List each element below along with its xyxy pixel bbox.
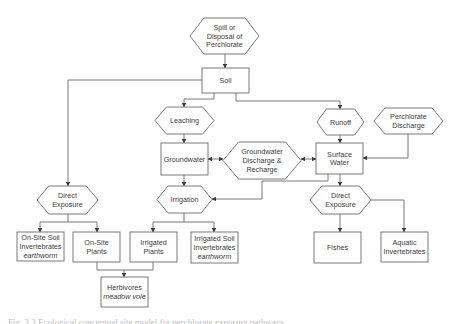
edge-irrigation-to-plants (153, 213, 184, 232)
edge-onsite-plants-to-herbivores (97, 262, 124, 277)
node-irrigated-plants: IrrigatedPlants (130, 232, 177, 262)
node-aquatic-inverts: AquaticInvertebrates (381, 232, 428, 262)
edge-de-soil-to-soil-inverts (40, 214, 68, 232)
node-label: Runoff (330, 118, 351, 127)
node-label: Recharge (246, 165, 277, 174)
node-fishes: Fishes (314, 232, 361, 263)
node-species-label: meadow vole (103, 292, 145, 301)
node-onsite-soil-inverts: On-Site SoilInvertebratesearthworm (17, 232, 64, 261)
diagram-nodes: Spill orDisposal ofPerchlorateSoilLeachi… (17, 18, 443, 307)
edge-soil-to-runoff (236, 93, 340, 109)
node-direct-exposure-soil: DirectExposure (37, 186, 98, 214)
node-perchlorate-discharge: PerchlorateDischarge (374, 108, 443, 134)
node-spill: Spill orDisposal ofPerchlorate (190, 18, 259, 54)
figure-caption: Fig. 3.3 Ecological conceptual site mode… (8, 317, 458, 324)
node-label: Fishes (327, 243, 349, 252)
node-label: Groundwater (164, 155, 206, 164)
node-gw-discharge-recharge: GroundwaterDischarge &Recharge (223, 142, 301, 179)
node-label: Perchlorate (206, 40, 243, 49)
node-species-label: earthworm (198, 252, 232, 261)
node-onsite-plants: On-SitePlants (73, 232, 120, 262)
node-direct-exposure-water: DirectExposure (310, 186, 371, 214)
node-label: Plants (144, 247, 164, 256)
edge-irrigation-to-soil-inverts (184, 222, 214, 232)
node-leaching: Leaching (155, 107, 214, 134)
exposure-pathway-diagram: Spill orDisposal ofPerchlorateSoilLeachi… (0, 0, 460, 324)
node-label: Exposure (325, 200, 355, 209)
node-soil: Soil (202, 68, 249, 93)
edge-soil-to-leaching (184, 93, 214, 107)
edge-de-soil-to-plants (68, 222, 97, 232)
node-label: Soil (220, 76, 232, 85)
node-irrigated-soil-inverts: Irrigated SoilInvertebratesearthworm (191, 232, 238, 263)
node-label: Discharge (392, 121, 424, 130)
node-label: Plants (87, 247, 107, 256)
node-label: Water (330, 158, 350, 167)
node-surface-water: SurfaceWater (316, 143, 363, 174)
edge-perchlorate-to-surface-water (363, 134, 408, 158)
node-label: Leaching (170, 116, 199, 125)
edge-irrigated-plants-to-herbivores (124, 262, 153, 270)
node-label: Invertebrates (384, 247, 426, 256)
node-runoff: Runoff (317, 109, 364, 135)
node-species-label: earthworm (24, 251, 58, 260)
node-herbivores: Herbivoresmeadow vole (101, 277, 148, 307)
node-irrigation: Irrigation (157, 186, 212, 213)
node-groundwater: Groundwater (161, 143, 208, 175)
edge-de-water-to-aquatic (371, 200, 404, 232)
node-label: Exposure (52, 200, 82, 209)
node-label: Irrigation (171, 195, 199, 204)
